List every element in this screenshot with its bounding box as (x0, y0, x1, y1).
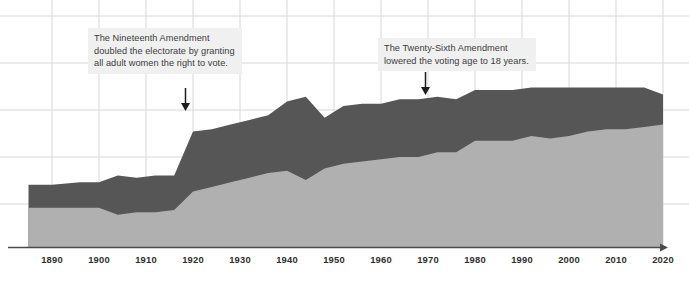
x-tick-1910: 1910 (135, 254, 157, 265)
x-tick-1980: 1980 (464, 254, 486, 265)
annotation-twenty-sixth-amendment: The Twenty-Sixth Amendment lowered the v… (378, 38, 536, 71)
x-tick-1900: 1900 (88, 254, 110, 265)
x-tick-1920: 1920 (182, 254, 204, 265)
x-tick-1890: 1890 (41, 254, 63, 265)
x-tick-1990: 1990 (511, 254, 533, 265)
x-tick-1960: 1960 (370, 254, 392, 265)
x-tick-2000: 2000 (558, 254, 580, 265)
annotation-arrow-2 (421, 72, 430, 95)
annotation-arrow-1 (181, 88, 190, 111)
x-tick-1970: 1970 (417, 254, 439, 265)
x-tick-1950: 1950 (323, 254, 345, 265)
chart-container: The Nineteenth Amendment doubled the ele… (0, 0, 689, 282)
x-tick-2010: 2010 (605, 254, 627, 265)
x-tick-1940: 1940 (276, 254, 298, 265)
annotation-nineteenth-amendment: The Nineteenth Amendment doubled the ele… (88, 28, 242, 74)
x-tick-1930: 1930 (229, 254, 251, 265)
x-tick-2020: 2020 (652, 254, 674, 265)
